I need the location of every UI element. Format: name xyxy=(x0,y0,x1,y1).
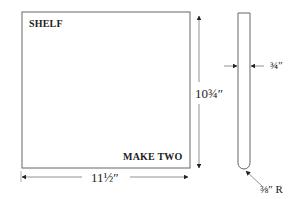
quantity-note-label: MAKE TWO xyxy=(123,152,182,162)
height-dimension-label: 10¾″ xyxy=(195,87,223,100)
part-name-label: SHELF xyxy=(29,19,63,29)
shelf-diagram: SHELF MAKE TWO 10¾″ 11½″ ¾″ ⅜″ R xyxy=(0,0,297,199)
radius-dimension-label: ⅜″ R xyxy=(260,184,283,195)
thickness-dimension-label: ¾″ xyxy=(270,60,283,71)
shelf-front-view xyxy=(22,12,190,168)
shelf-side-view xyxy=(238,13,250,169)
width-dimension-label: 11½″ xyxy=(91,171,119,184)
diagram-drawing xyxy=(0,0,297,199)
